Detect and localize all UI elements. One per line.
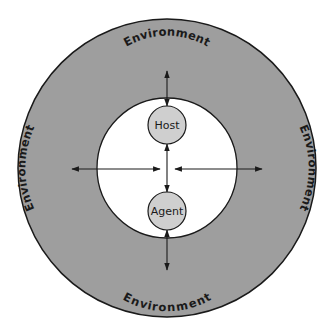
host-label: Host — [154, 119, 180, 132]
agent-node: Agent — [148, 192, 186, 230]
host-agent-environment-diagram: Host Agent Environment Environment Envir… — [0, 0, 334, 331]
host-node: Host — [148, 106, 186, 144]
agent-label: Agent — [151, 205, 184, 218]
